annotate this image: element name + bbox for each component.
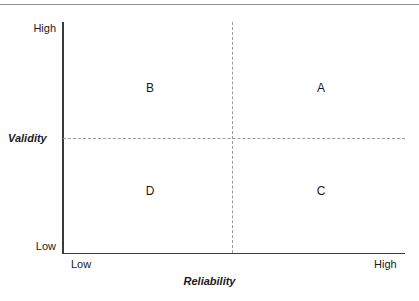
x-axis-line — [62, 253, 405, 255]
x-axis-title: Reliability — [0, 275, 419, 288]
validity-reliability-quadrant-chart: High Low Validity Low High Reliability B… — [0, 0, 419, 301]
x-axis-low-tick-label: Low — [71, 258, 91, 271]
x-axis-high-tick-label: High — [374, 258, 397, 271]
quadrant-label-a: A — [311, 81, 331, 95]
y-axis-title: Validity — [8, 132, 47, 145]
y-axis-low-tick-label: Low — [24, 240, 56, 253]
y-axis-high-tick-label: High — [24, 22, 56, 35]
quadrant-label-b: B — [140, 81, 160, 95]
horizontal-dashed-divider — [63, 138, 405, 139]
quadrant-label-c: C — [311, 184, 331, 198]
quadrant-label-d: D — [140, 184, 160, 198]
